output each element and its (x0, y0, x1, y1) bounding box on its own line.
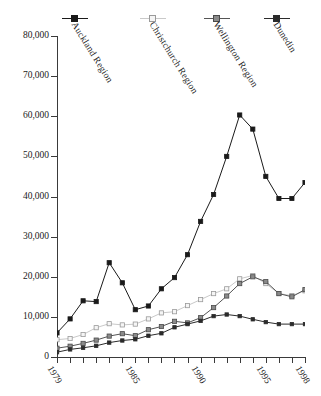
data-point-marker (251, 275, 255, 279)
data-point-marker (172, 310, 176, 314)
data-point-marker (225, 287, 229, 291)
data-point-marker (108, 341, 111, 344)
x-tick (305, 357, 306, 363)
x-tick (96, 357, 97, 363)
data-point-marker (107, 334, 111, 338)
data-point-marker (277, 292, 281, 296)
x-tick (253, 357, 254, 363)
x-tick (279, 357, 280, 363)
data-point-marker (238, 282, 242, 286)
y-tick-label: 70,000 (2, 70, 49, 80)
data-point-marker (68, 336, 72, 340)
data-point-marker (120, 332, 124, 336)
data-point-marker (121, 339, 124, 342)
data-point-marker (225, 294, 229, 298)
series-line (57, 277, 305, 348)
data-point-marker (81, 299, 85, 303)
x-tick (135, 357, 136, 363)
x-tick (57, 357, 58, 363)
x-tick (201, 357, 202, 363)
x-tick (122, 357, 123, 363)
y-tick-label: 20,000 (2, 271, 49, 281)
x-tick (188, 357, 189, 363)
data-point-marker (172, 276, 176, 280)
data-point-marker (185, 304, 189, 308)
data-point-marker (225, 313, 228, 316)
data-point-marker (57, 346, 59, 350)
data-point-marker (264, 174, 268, 178)
data-point-marker (68, 317, 72, 321)
data-point-marker (57, 331, 59, 335)
data-point-marker (303, 180, 305, 184)
y-tick-label: 80,000 (2, 30, 49, 40)
data-point-marker (264, 280, 268, 284)
data-point-marker (290, 322, 293, 325)
x-tick-label: 1985 (124, 364, 143, 385)
data-point-marker (107, 322, 111, 326)
data-point-marker (107, 261, 111, 265)
data-point-marker (290, 196, 294, 200)
data-point-marker (264, 320, 267, 323)
x-axis-line (57, 357, 306, 358)
data-point-marker (238, 314, 241, 317)
data-point-marker (81, 341, 85, 345)
data-point-marker (238, 113, 242, 117)
chart-container: Auckland RegionChristchurch RegionWellin… (0, 0, 321, 396)
data-point-marker (251, 127, 255, 131)
data-point-marker (68, 348, 71, 351)
data-point-marker (238, 277, 242, 281)
data-point-marker (251, 318, 254, 321)
x-tick (109, 357, 110, 363)
data-point-marker (133, 334, 137, 338)
series-lines (57, 36, 305, 357)
data-point-marker (290, 295, 294, 299)
data-point-marker (173, 326, 176, 329)
data-point-marker (146, 317, 150, 321)
data-point-marker (133, 322, 137, 326)
data-point-marker (212, 306, 216, 310)
data-point-marker (277, 196, 281, 200)
x-tick-label: 1979 (46, 364, 65, 385)
x-tick (83, 357, 84, 363)
data-point-marker (303, 288, 305, 292)
data-point-marker (212, 314, 215, 317)
y-tick-label: 30,000 (2, 231, 49, 241)
x-tick (292, 357, 293, 363)
data-point-marker (133, 308, 137, 312)
data-point-marker (95, 344, 98, 347)
data-point-marker (146, 304, 150, 308)
data-point-marker (57, 338, 59, 342)
data-point-marker (159, 311, 163, 315)
x-tick (227, 357, 228, 363)
x-tick (70, 357, 71, 363)
data-point-marker (225, 154, 229, 158)
x-tick (148, 357, 149, 363)
x-tick (240, 357, 241, 363)
data-point-marker (160, 332, 163, 335)
data-point-marker (212, 192, 216, 196)
data-point-marker (172, 319, 176, 323)
data-point-marker (199, 298, 203, 302)
data-point-marker (186, 322, 189, 325)
y-tick-label: 60,000 (2, 110, 49, 120)
data-point-marker (277, 322, 280, 325)
data-point-marker (199, 319, 202, 322)
x-tick-label: 1995 (254, 364, 273, 385)
y-tick-label: 40,000 (2, 191, 49, 201)
data-point-marker (303, 322, 305, 325)
data-point-marker (81, 332, 85, 336)
data-point-marker (120, 281, 124, 285)
data-point-marker (199, 219, 203, 223)
data-point-marker (146, 328, 150, 332)
data-point-marker (94, 300, 98, 304)
data-point-marker (212, 292, 216, 296)
y-tick-label: 10,000 (2, 311, 49, 321)
data-point-marker (185, 253, 189, 257)
x-tick (266, 357, 267, 363)
data-point-marker (57, 351, 59, 354)
y-tick-label: 0 (2, 351, 49, 361)
x-tick (214, 357, 215, 363)
data-point-marker (147, 334, 150, 337)
data-point-marker (134, 338, 137, 341)
data-point-marker (120, 323, 124, 327)
